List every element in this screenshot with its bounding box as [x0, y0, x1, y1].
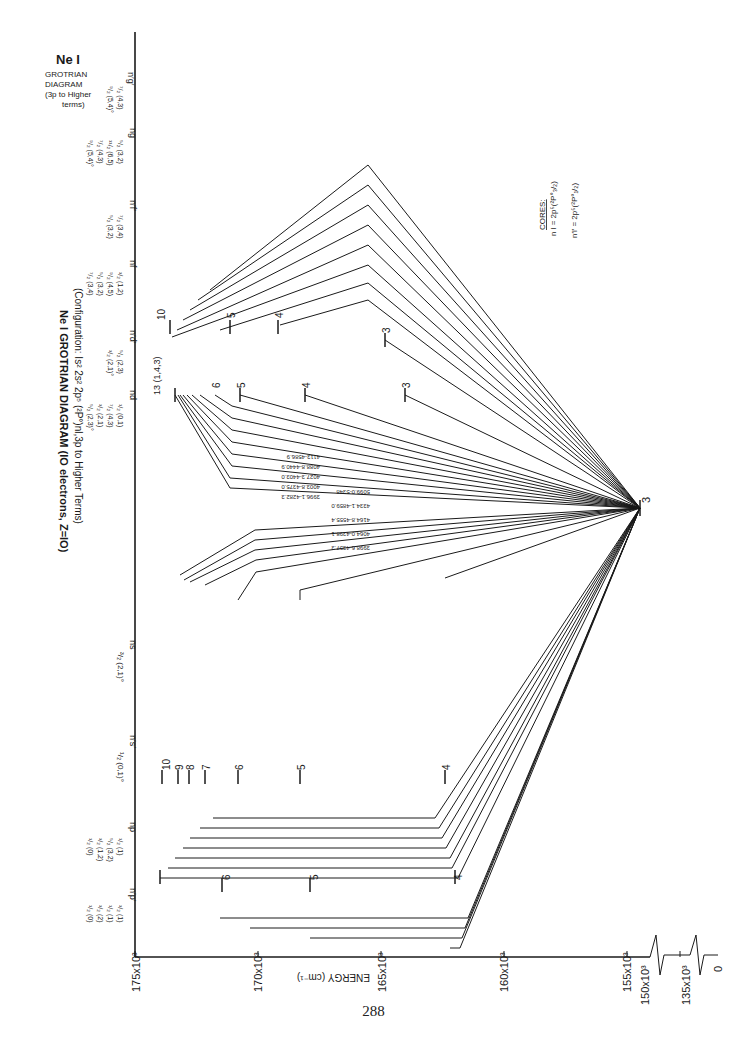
- tick-155: 155x10³: [621, 952, 633, 992]
- svg-text:¹/₂ (0): ¹/₂ (0): [86, 838, 94, 856]
- svg-text:5: 5: [296, 764, 307, 770]
- cores-annotation: CORES: n l = 2p⁵(²P°₃/₂) n′l′ = 2p⁵(²P°₁…: [538, 181, 579, 238]
- svg-text:6: 6: [234, 764, 245, 770]
- levels-nps: 10 9 8 7 6 5 4: [161, 758, 452, 784]
- axis-tick-labels: 175x10³ 170x10³ 165x10³ 160x10³ 155x10³ …: [130, 952, 724, 1005]
- svg-text:terms): terms): [62, 100, 85, 109]
- svg-text:⁷/₂ (4,3): ⁷/₂ (4,3): [116, 86, 124, 110]
- col-nps: n′s′: [128, 735, 138, 748]
- svg-text:3: 3: [381, 327, 392, 333]
- svg-text:³/₂ (1): ³/₂ (1): [116, 905, 124, 923]
- col-ng: ng: [128, 128, 138, 138]
- tick-0: 0: [712, 966, 724, 972]
- svg-text:³/₂ (2): ³/₂ (2): [96, 905, 104, 923]
- svg-text:⁹/₂ (5,4)°: ⁹/₂ (5,4)°: [106, 86, 114, 113]
- svg-text:3998.6-4357.3: 3998.6-4357.3: [331, 545, 370, 551]
- col-nf: nf: [128, 260, 138, 268]
- svg-text:n′l′ = 2p⁵(²P°₁/₂): n′l′ = 2p⁵(²P°₁/₂): [570, 183, 579, 238]
- svg-text:⁷/₂ (3,4): ⁷/₂ (3,4): [116, 215, 124, 239]
- col-npp: n′p′: [128, 888, 138, 902]
- svg-text:5: 5: [309, 874, 320, 880]
- svg-text:5: 5: [236, 382, 247, 388]
- tick-170: 170x10³: [252, 952, 264, 992]
- svg-text:10: 10: [161, 758, 172, 770]
- tick-175: 175x10³: [130, 952, 142, 992]
- svg-text:⁷/₂ (3,4): ⁷/₂ (3,4): [86, 272, 94, 296]
- col-ngp: n′g′: [126, 72, 136, 86]
- axis-label: ENERGY (cm⁻¹): [297, 972, 370, 983]
- transitions-ns: [160, 508, 640, 948]
- svg-text:3: 3: [401, 382, 412, 388]
- svg-text:4: 4: [301, 382, 312, 388]
- svg-text:¹/₂ (1): ¹/₂ (1): [106, 905, 114, 923]
- svg-text:4: 4: [274, 312, 285, 318]
- svg-text:8: 8: [185, 764, 196, 770]
- transitions-nps: [180, 508, 640, 600]
- svg-text:7: 7: [201, 764, 212, 770]
- col-np: np: [128, 822, 138, 832]
- svg-text:6: 6: [221, 874, 232, 880]
- wavelength-labels-nps: 3998.6-4357.3 4064.0-4398.1 4164.8-4555.…: [331, 489, 370, 551]
- svg-text:³/₂ (2,1): ³/₂ (2,1): [96, 404, 104, 427]
- levels-nd: 13 (1,4,3) 6 5 4 3: [152, 356, 412, 402]
- svg-text:³/₂ (2,1)°: ³/₂ (2,1)°: [106, 350, 114, 376]
- svg-text:¹/₂ (0): ¹/₂ (0): [86, 905, 94, 923]
- grotrian-diagram: 175x10³ 170x10³ 165x10³ 160x10³ 155x10³ …: [0, 0, 747, 1062]
- col-nfp: n′f′: [128, 200, 138, 211]
- svg-text:4: 4: [441, 764, 452, 770]
- element-name: Ne I: [56, 52, 80, 67]
- diagram-title: Ne I GROTRIAN DIAGRAM (IO electrons, Z=I…: [58, 288, 84, 553]
- svg-text:⁵/₂ (3,2): ⁵/₂ (3,2): [106, 838, 114, 862]
- svg-text:⁵/₂ (2,3): ⁵/₂ (2,3): [116, 350, 124, 374]
- svg-text:¹/₂ (0,1)°: ¹/₂ (0,1)°: [116, 752, 125, 782]
- svg-text:4113-4586.9: 4113-4586.9: [286, 454, 320, 460]
- svg-text:³/₂ (2,1)°: ³/₂ (2,1)°: [116, 652, 125, 682]
- svg-text:³/₂ (1,2): ³/₂ (1,2): [96, 838, 104, 861]
- svg-text:⁷/₂ (4,3): ⁷/₂ (4,3): [96, 140, 104, 164]
- svg-text:n l = 2p⁵(²P°₃/₂): n l = 2p⁵(²P°₃/₂): [549, 181, 558, 236]
- transitions-nd: [175, 395, 640, 508]
- svg-text:4164.8-4555.4: 4164.8-4555.4: [331, 517, 370, 523]
- title-main: Ne I GROTRIAN DIAGRAM (IO electrons, Z=I…: [58, 310, 70, 553]
- svg-text:4088.8-4440.9: 4088.8-4440.9: [281, 464, 320, 470]
- svg-text:⁹/₂ (5,4)°: ⁹/₂ (5,4)°: [86, 140, 94, 167]
- svg-text:4: 4: [453, 874, 464, 880]
- svg-text:¹¹/₂ (6,5): ¹¹/₂ (6,5): [106, 140, 114, 166]
- svg-text:DIAGRAM: DIAGRAM: [45, 80, 83, 89]
- svg-text:10: 10: [156, 308, 167, 320]
- svg-text:⁵/₂ (3,2): ⁵/₂ (3,2): [116, 140, 124, 164]
- svg-text:³/₂ (1,2): ³/₂ (1,2): [116, 272, 124, 295]
- svg-text:4334.1-4859.0: 4334.1-4859.0: [331, 503, 370, 509]
- levels-ns: 6 5 4: [160, 870, 464, 892]
- col-ns: ns: [128, 640, 138, 650]
- svg-text:¹/₂ (1): ¹/₂ (1): [116, 838, 124, 856]
- page-number: 288: [0, 1003, 747, 1020]
- col-nd: nd: [128, 390, 138, 400]
- svg-text:⁷/₂ (4,3): ⁷/₂ (4,3): [106, 404, 114, 428]
- svg-text:⁵/₂ (2,3)°: ⁵/₂ (2,3)°: [86, 404, 94, 431]
- svg-text:9: 9: [174, 764, 185, 770]
- svg-text:5: 5: [226, 312, 237, 318]
- tick-135: 135x10³: [680, 965, 692, 1005]
- svg-text:¹/₂ (0,1): ¹/₂ (0,1): [116, 404, 124, 427]
- levels-ndp: 10 5 4 3: [156, 308, 392, 347]
- col-ndp: n′d′: [128, 330, 138, 344]
- tick-165: 165x10³: [376, 952, 388, 992]
- svg-text:3: 3: [640, 497, 652, 503]
- origin-level: 3: [640, 497, 652, 516]
- svg-text:⁹/₂ (4,5): ⁹/₂ (4,5): [106, 272, 114, 296]
- corner-label: Ne I GROTRIAN DIAGRAM (3p to Higher term…: [45, 52, 92, 109]
- svg-text:(3p to Higher: (3p to Higher: [45, 90, 92, 99]
- svg-text:GROTRIAN: GROTRIAN: [45, 70, 87, 79]
- tick-150: 150x10³: [639, 965, 651, 1005]
- title-config: (Configuration: Is² 2s² 2p⁵ (²P°)nl,3p t…: [73, 288, 84, 524]
- svg-text:⁵/₂ (3,2): ⁵/₂ (3,2): [96, 272, 104, 296]
- svg-text:⁵/₂ (3,2): ⁵/₂ (3,2): [106, 215, 114, 239]
- svg-text:4027.3-4403.0: 4027.3-4403.0: [281, 474, 320, 480]
- svg-text:3996.1-4282.3: 3996.1-4282.3: [281, 494, 320, 500]
- svg-text:CORES:: CORES:: [538, 199, 547, 230]
- tick-160: 160x10³: [498, 952, 510, 992]
- svg-text:6: 6: [211, 382, 222, 388]
- svg-text:13 (1,4,3): 13 (1,4,3): [152, 356, 162, 395]
- svg-text:5099.0-5348: 5099.0-5348: [336, 489, 370, 495]
